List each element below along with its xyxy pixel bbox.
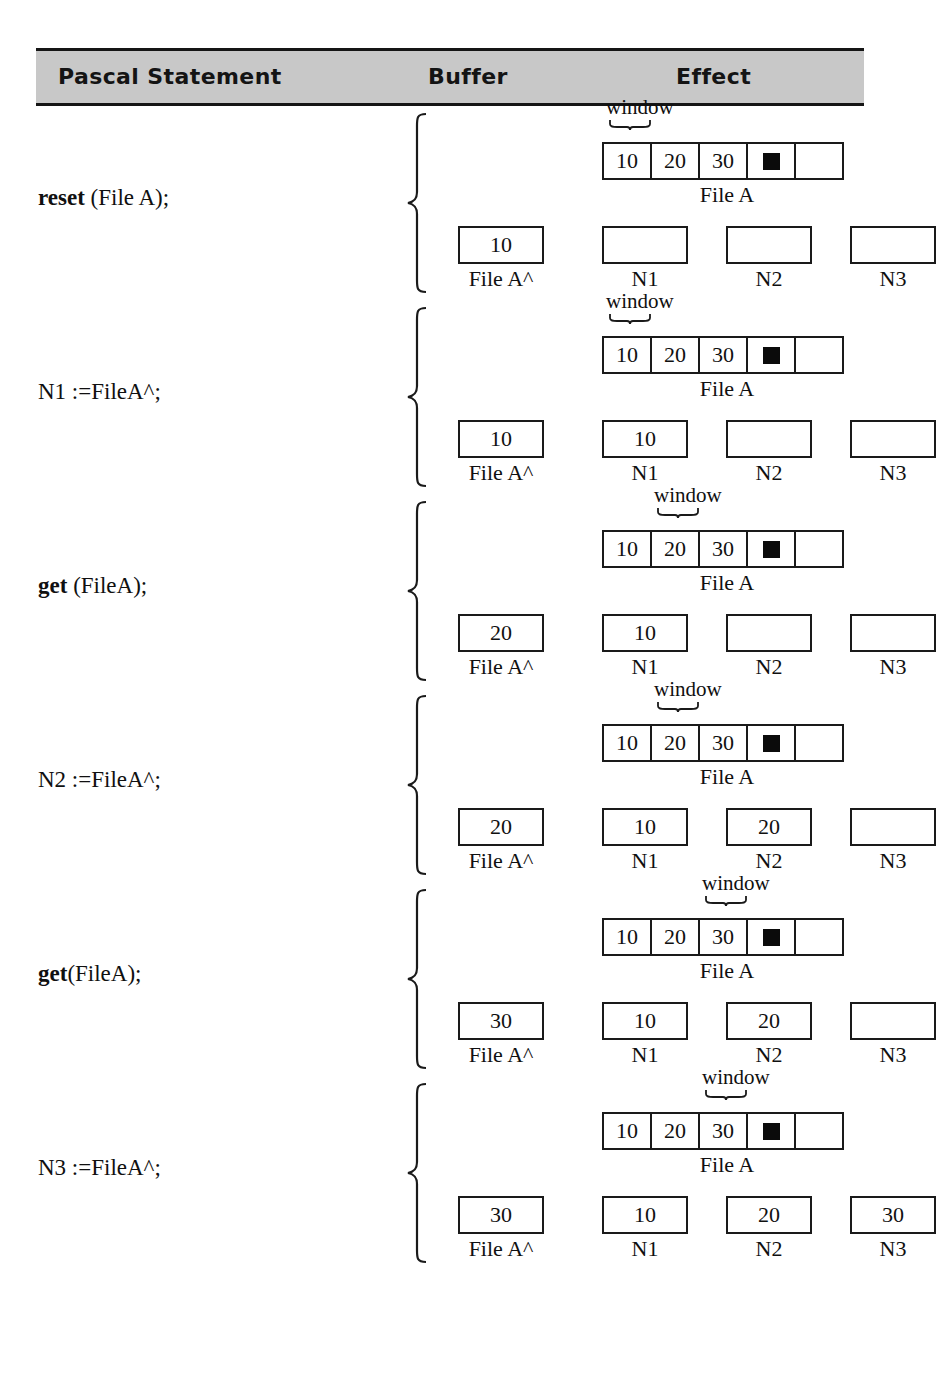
window-brace-icon [606, 313, 654, 325]
variable-box-label: N1 [602, 848, 688, 874]
header-effect: Effect [676, 51, 751, 103]
file-tape-caption: File A [602, 1152, 852, 1178]
statement-keyword: get [38, 573, 67, 598]
eof-square-icon [763, 1123, 780, 1140]
variable-box: 10 [602, 420, 688, 458]
window-indicator: window [606, 290, 654, 325]
buffer-box: 10 [458, 226, 544, 264]
eof-marker-icon [748, 532, 796, 566]
eof-square-icon [763, 541, 780, 558]
eof-marker-icon [748, 920, 796, 954]
header-buffer: Buffer [428, 51, 508, 103]
variable-box: 20 [726, 1196, 812, 1234]
tape-cell: 10 [604, 920, 652, 954]
variable-box: 10 [602, 1196, 688, 1234]
variable-box: 10 [602, 808, 688, 846]
variable-box-label: N3 [850, 654, 936, 680]
eof-square-icon [763, 735, 780, 752]
tape-cell: 30 [700, 338, 748, 372]
variable-box: 30 [850, 1196, 936, 1234]
file-tape: 102030window [602, 336, 844, 374]
tape-cell: 30 [700, 726, 748, 760]
variable-box [726, 226, 812, 264]
tape-cell: 10 [604, 338, 652, 372]
statement-arguments: (File A); [85, 185, 169, 210]
window-brace-icon [654, 701, 702, 713]
variable-box [850, 614, 936, 652]
variable-box-label: N1 [602, 1236, 688, 1262]
window-label: window [606, 96, 654, 118]
window-brace-icon [702, 1089, 750, 1101]
row-grouping-brace-icon [404, 306, 430, 488]
window-brace-icon [606, 119, 654, 131]
row-grouping-brace-icon [404, 1082, 430, 1264]
variable-box-label: N3 [850, 1236, 936, 1262]
file-tape: 102030window [602, 142, 844, 180]
variable-box-label: N3 [850, 460, 936, 486]
statement-arguments: N2 :=FileA^; [38, 767, 161, 792]
file-tape-caption: File A [602, 958, 852, 984]
window-label: window [654, 484, 702, 506]
buffer-box: 30 [458, 1196, 544, 1234]
tape-cell: 30 [700, 920, 748, 954]
file-tape: 102030window [602, 530, 844, 568]
statement-keyword: get [38, 961, 67, 986]
buffer-box-label: File A^ [458, 1236, 544, 1262]
window-indicator: window [606, 96, 654, 131]
tape-cell: 20 [652, 726, 700, 760]
buffer-box-label: File A^ [458, 848, 544, 874]
variable-box: 20 [726, 1002, 812, 1040]
variable-box-label: N2 [726, 460, 812, 486]
row-grouping-brace-icon [404, 500, 430, 682]
tape-cell: 20 [652, 144, 700, 178]
file-tape-caption: File A [602, 570, 852, 596]
window-brace-icon [654, 507, 702, 519]
row-grouping-brace-icon [404, 112, 430, 294]
statement-text: reset (File A); [38, 184, 368, 212]
buffer-box: 10 [458, 420, 544, 458]
variable-box [602, 226, 688, 264]
tape-cell: 20 [652, 532, 700, 566]
tape-cell: 10 [604, 1114, 652, 1148]
tape-cell: 10 [604, 726, 652, 760]
tape-cell-empty [796, 338, 844, 372]
statement-text: N1 :=FileA^; [38, 378, 368, 406]
variable-box-label: N2 [726, 266, 812, 292]
window-indicator: window [702, 1066, 750, 1101]
statement-text: N2 :=FileA^; [38, 766, 368, 794]
variable-box-label: N2 [726, 1236, 812, 1262]
file-tape: 102030window [602, 918, 844, 956]
statement-arguments: N3 :=FileA^; [38, 1155, 161, 1180]
window-indicator: window [654, 484, 702, 519]
file-tape-caption: File A [602, 376, 852, 402]
table-body: reset (File A);102030windowFile A10File … [36, 106, 864, 1270]
buffer-box-label: File A^ [458, 460, 544, 486]
statement-text: N3 :=FileA^; [38, 1154, 368, 1182]
variable-box [850, 420, 936, 458]
eof-marker-icon [748, 1114, 796, 1148]
eof-marker-icon [748, 144, 796, 178]
window-label: window [654, 678, 702, 700]
statement-arguments: N1 :=FileA^; [38, 379, 161, 404]
window-label: window [606, 290, 654, 312]
variable-box-label: N1 [602, 1042, 688, 1068]
variable-box-label: N3 [850, 1042, 936, 1068]
tape-cell-empty [796, 1114, 844, 1148]
statement-text: get(FileA); [38, 960, 368, 988]
window-brace-icon [702, 895, 750, 907]
table-header: Pascal Statement Buffer Effect [36, 48, 864, 106]
tape-cell-empty [796, 144, 844, 178]
variable-box: 10 [602, 1002, 688, 1040]
buffer-box: 30 [458, 1002, 544, 1040]
tape-cell: 20 [652, 1114, 700, 1148]
pascal-file-io-figure: Pascal Statement Buffer Effect reset (Fi… [36, 48, 864, 1270]
variable-box [850, 808, 936, 846]
tape-cell: 10 [604, 532, 652, 566]
eof-square-icon [763, 929, 780, 946]
variable-box-label: N2 [726, 654, 812, 680]
row-grouping-brace-icon [404, 888, 430, 1070]
tape-cell-empty [796, 532, 844, 566]
variable-box [726, 614, 812, 652]
eof-square-icon [763, 153, 780, 170]
variable-box [850, 1002, 936, 1040]
